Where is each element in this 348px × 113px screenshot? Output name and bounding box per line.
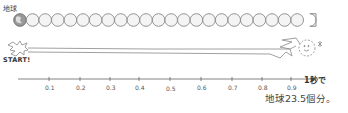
tick-label: 0.8 (258, 84, 268, 91)
tick-label: 0.5 (166, 85, 176, 92)
time-axis (18, 76, 315, 82)
tick-label: 0.7 (228, 84, 238, 91)
one-second-label: 1秒で (304, 74, 326, 85)
earth-count-label: 地球23.5個分。 (265, 91, 336, 105)
earth-circles (14, 14, 316, 27)
start-label: START! (3, 56, 31, 64)
tick-label: 0.3 (106, 84, 116, 91)
tick-label: 0.6 (197, 84, 207, 91)
tick-label: 0.9 (287, 84, 297, 91)
tick-label: 0.1 (45, 84, 55, 91)
earth-label: 地球 (3, 3, 17, 13)
light-beam (8, 38, 322, 58)
tick-label: 0.2 (76, 84, 86, 91)
tick-label: 0.4 (135, 84, 145, 91)
